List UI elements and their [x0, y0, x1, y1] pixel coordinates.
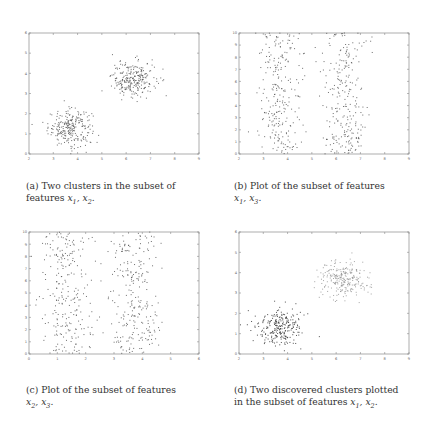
data-point-discovered-cluster-2 — [350, 259, 351, 260]
data-point-cluster-1 — [284, 153, 285, 154]
caption-d-text: (d) Two discovered clusters plotted — [234, 384, 398, 395]
data-point-cluster-2 — [130, 89, 131, 90]
data-point-cluster-2 — [154, 86, 155, 87]
data-point-cluster-2 — [126, 82, 127, 83]
data-point-discovered-cluster-2 — [343, 279, 344, 280]
data-point-discovered-cluster-2 — [331, 269, 332, 270]
data-point-cluster-1 — [278, 69, 279, 70]
y-tick-label: 3 — [25, 316, 27, 320]
data-point-cluster-2 — [139, 266, 140, 267]
data-point-cluster-1 — [73, 244, 74, 245]
caption-c: (c) Plot of the subset of features x2, x… — [26, 384, 216, 412]
data-point-cluster-1 — [65, 326, 66, 327]
data-point-cluster-1 — [72, 131, 73, 132]
data-point-discovered-cluster-1 — [295, 303, 296, 304]
data-point-cluster-1 — [276, 36, 277, 37]
data-point-cluster-1 — [47, 128, 48, 129]
data-point-discovered-cluster-2 — [353, 275, 354, 276]
data-point-discovered-cluster-1 — [275, 316, 276, 317]
data-point-cluster-2 — [137, 67, 138, 68]
caption-b-text: (b) Plot of the subset of features — [234, 180, 385, 191]
data-point-cluster-1 — [286, 133, 287, 134]
data-point-cluster-1 — [65, 282, 66, 283]
data-point-cluster-2 — [333, 36, 334, 37]
data-point-cluster-2 — [342, 127, 343, 128]
data-point-cluster-1 — [72, 129, 73, 130]
data-point-cluster-2 — [125, 82, 126, 83]
data-point-cluster-1 — [32, 124, 33, 125]
y-tick-label: 0 — [25, 152, 28, 156]
data-point-discovered-cluster-2 — [323, 280, 324, 281]
data-point-cluster-1 — [69, 129, 70, 130]
data-point-cluster-2 — [338, 76, 339, 77]
data-point-cluster-2 — [132, 300, 133, 301]
data-point-cluster-2 — [355, 150, 356, 151]
data-point-cluster-2 — [339, 143, 340, 144]
data-point-cluster-2 — [337, 121, 338, 122]
data-point-discovered-cluster-1 — [307, 313, 308, 314]
data-point-cluster-1 — [49, 353, 50, 354]
data-point-discovered-cluster-1 — [282, 318, 283, 319]
data-point-discovered-cluster-2 — [346, 276, 347, 277]
data-point-cluster-2 — [149, 258, 150, 259]
data-point-cluster-1 — [266, 112, 267, 113]
data-point-cluster-2 — [125, 244, 126, 245]
data-point-cluster-2 — [353, 58, 354, 59]
data-point-discovered-cluster-1 — [302, 332, 303, 333]
data-point-discovered-cluster-1 — [280, 319, 281, 320]
data-point-cluster-2 — [144, 82, 145, 83]
data-point-cluster-1 — [56, 331, 57, 332]
data-point-cluster-2 — [134, 307, 135, 308]
data-point-discovered-cluster-1 — [280, 331, 281, 332]
data-point-discovered-cluster-2 — [335, 259, 336, 260]
data-point-discovered-cluster-2 — [357, 279, 358, 280]
data-point-cluster-2 — [131, 279, 132, 280]
data-point-cluster-2 — [128, 81, 129, 82]
data-point-discovered-cluster-1 — [272, 332, 273, 333]
data-point-cluster-2 — [121, 317, 122, 318]
data-point-cluster-2 — [141, 88, 142, 89]
data-point-cluster-1 — [274, 84, 275, 85]
data-point-cluster-2 — [326, 75, 327, 76]
data-point-cluster-1 — [289, 40, 290, 41]
data-point-cluster-2 — [139, 68, 140, 69]
data-point-cluster-1 — [269, 59, 270, 60]
data-point-cluster-2 — [132, 98, 133, 99]
data-point-cluster-1 — [71, 135, 72, 136]
data-point-discovered-cluster-1 — [287, 330, 288, 331]
data-point-discovered-cluster-1 — [296, 329, 297, 330]
data-point-cluster-1 — [74, 298, 75, 299]
data-point-cluster-1 — [278, 78, 279, 79]
data-point-cluster-1 — [74, 144, 75, 145]
data-point-cluster-1 — [64, 347, 65, 348]
data-point-cluster-1 — [281, 143, 282, 144]
data-point-discovered-cluster-1 — [292, 322, 293, 323]
data-point-cluster-1 — [282, 40, 283, 41]
data-point-discovered-cluster-2 — [341, 276, 342, 277]
data-point-cluster-2 — [367, 107, 368, 108]
data-point-cluster-2 — [352, 152, 353, 153]
data-point-cluster-1 — [285, 149, 286, 150]
data-point-discovered-cluster-1 — [262, 330, 263, 331]
data-point-discovered-cluster-1 — [257, 335, 258, 336]
data-point-cluster-2 — [121, 346, 122, 347]
data-point-cluster-2 — [140, 239, 141, 240]
data-point-discovered-cluster-2 — [352, 285, 353, 286]
data-point-cluster-2 — [120, 64, 121, 65]
data-point-discovered-cluster-2 — [336, 295, 337, 296]
data-point-cluster-2 — [339, 72, 340, 73]
data-point-discovered-cluster-2 — [333, 282, 334, 283]
data-point-cluster-1 — [78, 305, 79, 306]
data-point-discovered-cluster-2 — [347, 269, 348, 270]
data-point-cluster-2 — [344, 152, 345, 153]
data-point-cluster-1 — [275, 45, 276, 46]
data-point-discovered-cluster-2 — [338, 294, 339, 295]
data-point-discovered-cluster-2 — [345, 275, 346, 276]
data-point-cluster-2 — [347, 47, 348, 48]
data-point-cluster-2 — [361, 135, 362, 136]
data-point-discovered-cluster-1 — [279, 325, 280, 326]
data-point-cluster-2 — [140, 268, 141, 269]
data-point-cluster-2 — [350, 104, 351, 105]
data-point-cluster-2 — [139, 306, 140, 307]
data-point-cluster-2 — [128, 302, 129, 303]
